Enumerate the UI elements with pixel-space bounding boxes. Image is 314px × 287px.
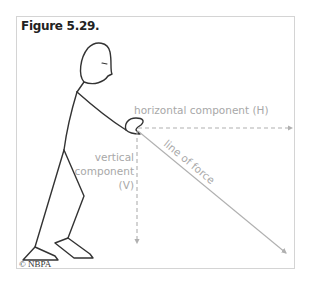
vertical-label-line2: component <box>75 165 134 177</box>
horizontal-label: horizontal component (H) <box>134 104 269 116</box>
force-diagram: horizontal component (H) vertical compon… <box>0 0 314 287</box>
line-of-force-arrow <box>138 131 286 253</box>
force-vectors <box>137 128 292 253</box>
right-foot <box>55 238 93 258</box>
vertical-label-line3: (V) <box>119 179 134 191</box>
torso-left-leg <box>35 92 77 247</box>
eye-icon <box>102 63 107 64</box>
right-leg <box>64 150 84 238</box>
arm <box>77 92 126 130</box>
head-icon <box>81 43 112 84</box>
line-of-force-label: line of force <box>162 137 218 186</box>
vertical-label-line1: vertical <box>95 151 134 163</box>
copyright-notice: © NBPA <box>19 259 51 269</box>
hand-icon <box>125 118 143 134</box>
